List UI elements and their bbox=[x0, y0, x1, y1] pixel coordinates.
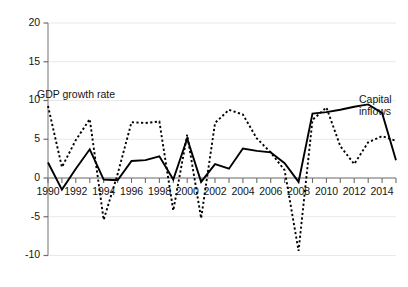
y-axis-label-minus10: -10 bbox=[0, 248, 40, 260]
x-axis-label-2014: 2014 bbox=[362, 185, 402, 197]
gridlines bbox=[48, 23, 396, 256]
annotation-capital-inflows-line1: Capital bbox=[359, 93, 392, 105]
x-axis bbox=[48, 178, 396, 183]
y-axis bbox=[44, 23, 49, 256]
series-line-gdp-growth-rate bbox=[48, 104, 396, 189]
y-axis-label-15: 15 bbox=[8, 55, 40, 67]
annotation-capital-inflows-line2: inflows bbox=[359, 105, 392, 117]
y-axis-label-20: 20 bbox=[8, 16, 40, 28]
line-chart-plot bbox=[0, 0, 408, 287]
annotation-capital-inflows: Capital inflows bbox=[359, 93, 392, 117]
annotation-gdp-growth-rate: GDP growth rate bbox=[37, 88, 115, 100]
chart-container: 20 15 10 5 0 -5 -10 1990 1992 1994 1996 … bbox=[0, 0, 408, 287]
y-axis-label-5: 5 bbox=[8, 132, 40, 144]
x-tick-marks bbox=[48, 178, 396, 183]
y-axis-label-10: 10 bbox=[8, 93, 40, 105]
y-axis-label-0: 0 bbox=[8, 171, 40, 183]
y-axis-label-minus5: -5 bbox=[4, 210, 40, 222]
